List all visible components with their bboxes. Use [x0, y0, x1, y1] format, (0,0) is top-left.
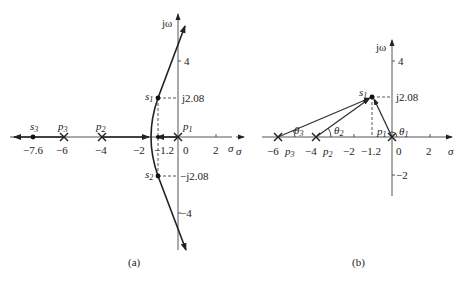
imag-tick-label: j2.08 — [181, 92, 205, 104]
p2-label: p2 — [322, 145, 333, 159]
imag-axis-label: jω — [375, 41, 386, 53]
real-tick-label: 0 — [396, 145, 402, 157]
real-tick-label: −4 — [95, 144, 107, 156]
s3-label: s3 — [30, 120, 38, 134]
panel-b: jω σ σ 4 j2.08 −2 −6 −4 −2 −1.2 0 2 s1 p… — [236, 40, 454, 269]
locus-upper-branch — [151, 26, 185, 137]
imag-tick-label: 4 — [184, 55, 190, 67]
theta2-label: θ2 — [334, 124, 343, 138]
real-tick-label: −1.2 — [154, 144, 174, 156]
imag-tick-label: 4 — [398, 55, 404, 67]
point-s3 — [31, 135, 36, 140]
real-tick-label: 0 — [183, 144, 189, 156]
real-tick-label: −2 — [343, 145, 355, 157]
p2-label: p2 — [95, 120, 106, 134]
s1-label: s1 — [359, 86, 367, 100]
angle-arc-theta2 — [328, 128, 331, 137]
imag-tick-label: −2 — [396, 169, 408, 181]
imag-tick-label: j2.08 — [395, 91, 419, 103]
root-locus-figure: jω σ 4 j2.08 −j2.08 −4 −7.6 −6 −4 −2 −1.… — [0, 0, 464, 282]
p1-label: p1 — [376, 125, 387, 139]
point-break — [156, 135, 160, 139]
caption-a: (a) — [128, 256, 141, 269]
theta1-label: θ1 — [399, 125, 408, 139]
s2-label: s2 — [145, 168, 153, 182]
point-s2 — [156, 174, 161, 179]
p3-label: p3 — [284, 145, 295, 159]
real-tick-label: −4 — [305, 145, 317, 157]
theta3-label: θ3 — [294, 124, 303, 138]
real-tick-label: −6 — [267, 145, 279, 157]
imag-tick-label: −j2.08 — [180, 170, 209, 182]
real-tick-label: 2 — [213, 144, 219, 156]
real-tick-label: −6 — [56, 144, 68, 156]
imag-axis-label: jω — [161, 17, 172, 29]
real-tick-label: −7.6 — [23, 144, 43, 156]
p1-label: p1 — [182, 120, 193, 134]
panel-a: jω σ 4 j2.08 −j2.08 −4 −7.6 −6 −4 −2 −1.… — [10, 14, 234, 269]
point-s1 — [370, 95, 375, 100]
point-s1 — [156, 96, 161, 101]
real-tick-label: −2 — [133, 144, 145, 156]
real-tick-label: −1.2 — [361, 145, 381, 157]
caption-b: (b) — [352, 256, 365, 269]
real-axis-label: σ — [448, 145, 454, 157]
real-axis-label-left: σ — [236, 145, 242, 157]
p3-label: p3 — [57, 120, 68, 134]
imag-tick-label: −4 — [180, 207, 192, 219]
real-tick-label: 2 — [426, 145, 432, 157]
real-axis-label: σ — [228, 142, 234, 154]
s1-label: s1 — [145, 90, 153, 104]
